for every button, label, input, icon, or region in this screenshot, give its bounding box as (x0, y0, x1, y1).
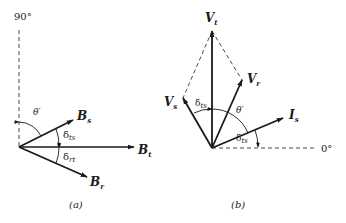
vector-bt-label: Bt (137, 143, 152, 159)
parallelogram-side-vr (212, 31, 242, 80)
vector-vs-label: Vs (164, 95, 177, 111)
delta-rt-arc (56, 148, 59, 163)
vector-vr-label: Vr (247, 72, 261, 88)
delta-ts-arc (56, 129, 59, 147)
axis-label-90: 90° (14, 11, 32, 22)
parallelogram-side-vs (183, 31, 212, 98)
theta-label: θ′ (236, 105, 243, 115)
theta-label: θ′ (33, 107, 40, 117)
figure-b: 0° Vt Vr Vs Is δts θ′ δts (b) (164, 11, 332, 210)
theta-arc (19, 122, 41, 136)
delta-rt-label: δrt (63, 151, 75, 164)
delta-ts-upper-label: δts (195, 98, 207, 110)
vector-bs-label: Bs (76, 109, 91, 125)
figure-a: 90° θ′ Bs Bt Br δts δrt (a) (14, 11, 152, 210)
delta-ts-label: δts (63, 129, 76, 142)
vector-is-label: Is (288, 108, 299, 124)
delta-ts-lower-arc (255, 130, 258, 147)
vector-vt-label: Vt (205, 11, 218, 27)
axis-label-0: 0° (321, 143, 332, 154)
caption-b: (b) (231, 199, 245, 210)
vector-br (19, 147, 87, 177)
vector-br-label: Br (89, 175, 105, 191)
caption-a: (a) (69, 199, 83, 210)
phasor-diagrams: 90° θ′ Bs Bt Br δts δrt (a) 0° (0, 0, 346, 223)
